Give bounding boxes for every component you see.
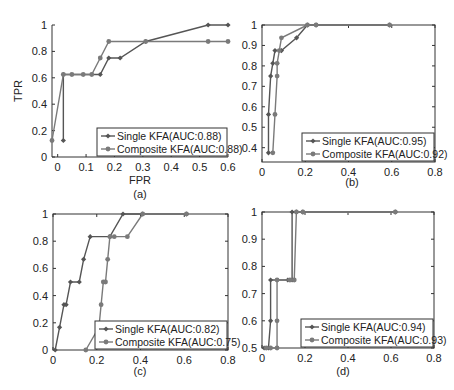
- y-tick-label: 0.8: [33, 235, 48, 247]
- data-point: [69, 72, 74, 77]
- legend-circle-icon: [104, 340, 109, 345]
- panel-a: 00.10.20.30.40.50.600.20.40.60.81Single …: [12, 19, 242, 200]
- data-point: [268, 346, 273, 351]
- data-point: [277, 48, 282, 53]
- data-point: [225, 22, 230, 27]
- legend-label: Single KFA(AUC:0.82): [115, 323, 219, 335]
- legend-label: Composite KFA(AUC:0.88): [117, 143, 242, 155]
- y-axis-label: TPR: [12, 80, 24, 102]
- roc-figure: 00.10.20.30.40.50.600.20.40.60.81Single …: [0, 0, 454, 390]
- y-tick-label: 0.8: [242, 260, 257, 272]
- y-tick-label: 0.9: [242, 39, 257, 51]
- y-tick-label: 0.6: [33, 262, 48, 274]
- data-point: [279, 35, 284, 40]
- data-point: [112, 234, 117, 239]
- data-point: [125, 234, 130, 239]
- y-tick-label: 0.6: [242, 315, 257, 327]
- data-point: [61, 138, 66, 143]
- panel-caption: (a): [133, 188, 146, 200]
- y-tick-label: 0.7: [242, 80, 257, 92]
- x-tick-label: 0.8: [220, 354, 235, 366]
- legend-label: Single KFA(AUC:0.88): [117, 130, 221, 142]
- data-point: [106, 39, 111, 44]
- legend-label: Single KFA(AUC:0.94): [321, 321, 425, 333]
- legend-label: Composite KFA(AUC:0.92): [322, 148, 447, 160]
- data-point: [275, 318, 280, 323]
- data-point: [275, 74, 280, 79]
- data-point: [61, 72, 66, 77]
- y-tick-label: 0.5: [242, 121, 257, 133]
- data-point: [275, 278, 280, 283]
- panel-caption: (c): [134, 365, 147, 377]
- x-tick-label: 0.6: [220, 161, 235, 173]
- panel-c: 00.20.40.60.800.20.40.60.81Single KFA(AU…: [33, 208, 241, 377]
- data-point: [266, 112, 271, 117]
- data-point: [268, 318, 273, 323]
- data-point: [272, 48, 277, 53]
- data-point: [57, 325, 62, 330]
- data-point: [387, 23, 392, 28]
- data-point: [77, 279, 82, 284]
- data-point: [273, 112, 278, 117]
- x-tick-label: 0.6: [383, 352, 398, 364]
- data-point: [305, 23, 310, 28]
- x-tick-label: 0.6: [177, 354, 192, 366]
- data-point: [264, 346, 269, 351]
- x-tick-label: 0.2: [89, 354, 104, 366]
- legend-circle-icon: [106, 147, 111, 152]
- data-point: [275, 61, 280, 66]
- panel-b: 00.20.40.60.80.40.50.60.70.80.91Single K…: [242, 19, 448, 188]
- data-point: [393, 210, 398, 215]
- data-point: [81, 72, 86, 77]
- x-tick-label: 0.1: [78, 161, 93, 173]
- y-tick-label: 0.5: [242, 342, 257, 354]
- x-tick-label: 0: [50, 354, 56, 366]
- y-tick-label: 1: [42, 208, 48, 220]
- x-tick-label: 0: [259, 166, 265, 178]
- data-point: [206, 22, 211, 27]
- data-point: [140, 212, 145, 217]
- data-point: [98, 72, 103, 77]
- y-tick-label: 1: [41, 19, 47, 31]
- data-point: [294, 210, 299, 215]
- y-tick-label: 0.4: [33, 290, 48, 302]
- panel-d: 00.20.40.60.80.50.60.70.80.91Single KFA(…: [242, 206, 447, 377]
- data-point: [300, 210, 305, 215]
- data-point: [226, 39, 231, 44]
- data-point: [107, 234, 112, 239]
- data-point: [268, 277, 273, 282]
- x-tick-label: 0.5: [192, 161, 207, 173]
- data-point: [103, 280, 108, 285]
- legend-circle-icon: [311, 152, 316, 157]
- x-tick-label: 0.3: [135, 161, 150, 173]
- data-point: [206, 39, 211, 44]
- data-point: [270, 61, 275, 66]
- data-point: [143, 39, 148, 44]
- data-point: [270, 150, 275, 155]
- data-point: [88, 234, 93, 239]
- y-tick-label: 0.2: [33, 317, 48, 329]
- data-point: [266, 150, 271, 155]
- panel-caption: (d): [336, 365, 349, 377]
- data-point: [268, 74, 273, 79]
- x-tick-label: 0.6: [384, 166, 399, 178]
- data-point: [81, 257, 86, 262]
- x-tick-label: 0.4: [340, 352, 355, 364]
- y-tick-label: 0: [41, 151, 47, 163]
- data-point: [106, 55, 111, 60]
- data-point: [89, 72, 94, 77]
- y-tick-label: 0: [42, 344, 48, 356]
- data-point: [68, 279, 73, 284]
- x-tick-label: 0.8: [427, 166, 442, 178]
- data-point: [50, 138, 55, 143]
- y-tick-label: 0.7: [242, 288, 257, 300]
- x-tick-label: 0.4: [164, 161, 179, 173]
- y-tick-label: 0.4: [242, 142, 257, 154]
- x-axis-label: FPR: [129, 174, 151, 186]
- data-point: [83, 348, 88, 353]
- legend-label: Composite KFA(AUC:0.93): [321, 334, 446, 346]
- y-tick-label: 0.4: [32, 98, 47, 110]
- data-point: [105, 257, 110, 262]
- x-tick-label: 0: [55, 161, 61, 173]
- series-line-composite: [52, 42, 228, 141]
